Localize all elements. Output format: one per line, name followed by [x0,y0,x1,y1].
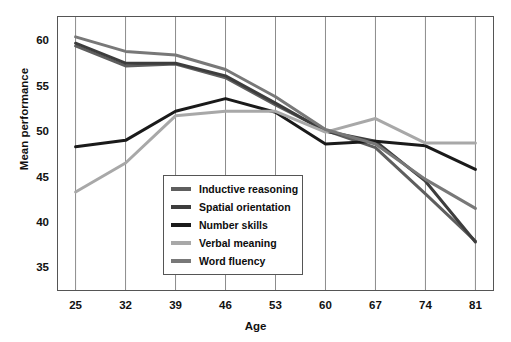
x-tick-label-74: 74 [405,299,445,311]
legend-item-word-fluency[interactable]: Word fluency [164,252,302,270]
legend-line-number-skills [171,223,191,227]
y-axis-title: Mean performance [18,49,30,189]
legend-label: Number skills [199,219,268,231]
chart-legend: Inductive reasoningSpatial orientationNu… [163,175,303,275]
legend-line-spatial-orientation [171,205,191,209]
legend-line-verbal-meaning [171,241,191,245]
y-tick-label-35: 35 [9,261,49,273]
y-tick-label-40: 40 [9,216,49,228]
y-tick-label-60: 60 [9,34,49,46]
x-tick-label-32: 32 [106,299,146,311]
x-tick-label-53: 53 [256,299,296,311]
y-tick-label-55: 55 [9,80,49,92]
x-tick-label-46: 46 [206,299,246,311]
plot-area [0,0,511,342]
legend-label: Word fluency [199,255,265,267]
legend-item-number-skills[interactable]: Number skills [164,216,302,234]
x-tick-label-25: 25 [56,299,96,311]
legend-item-inductive-reasoning[interactable]: Inductive reasoning [164,180,302,198]
legend-label: Spatial orientation [199,201,291,213]
x-tick-label-60: 60 [305,299,345,311]
line-chart: Mean performance Age 605550454035 253239… [0,0,511,342]
y-tick-label-45: 45 [9,171,49,183]
legend-label: Inductive reasoning [199,183,298,195]
legend-line-inductive-reasoning [171,187,191,191]
legend-item-spatial-orientation[interactable]: Spatial orientation [164,198,302,216]
x-tick-label-81: 81 [455,299,495,311]
legend-line-word-fluency [171,259,191,263]
x-tick-label-67: 67 [355,299,395,311]
legend-label: Verbal meaning [199,237,277,249]
legend-item-verbal-meaning[interactable]: Verbal meaning [164,234,302,252]
y-tick-label-50: 50 [9,125,49,137]
x-axis-title: Age [0,320,511,332]
x-tick-label-39: 39 [156,299,196,311]
